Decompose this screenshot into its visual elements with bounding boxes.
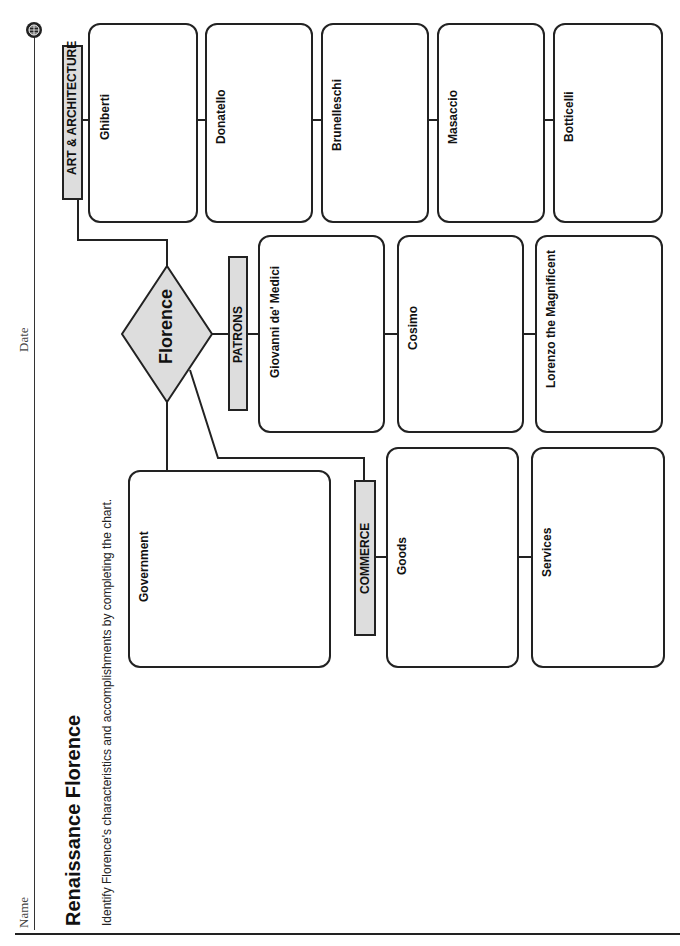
patron-box-giovanni-label: Giovanni de' Medici	[268, 266, 282, 378]
commerce-label: COMMERCE	[358, 523, 372, 594]
art-box-ghiberti-label: Ghiberti	[98, 94, 112, 140]
art-box-brunelleschi-label: Brunelleschi	[330, 79, 344, 151]
worksheet-page: Date Name Renaissance Florence Identify …	[0, 0, 680, 946]
art-box-masaccio-label: Masaccio	[446, 90, 460, 144]
patron-box-lorenzo-label: Lorenzo the Magnificent	[544, 250, 558, 388]
commerce-box-goods-label: Goods	[395, 537, 409, 575]
art-architecture-label: ART & ARCHITECTURE	[65, 41, 79, 175]
patrons-label: PATRONS	[231, 306, 245, 363]
government-box[interactable]	[128, 470, 331, 668]
center-label: Florence	[156, 289, 177, 364]
commerce-box-services-label: Services	[540, 528, 554, 577]
art-box-botticelli-label: Botticelli	[562, 91, 576, 142]
government-label: Government	[137, 531, 151, 602]
patron-box-cosimo-label: Cosimo	[406, 306, 420, 350]
art-box-donatello-label: Donatello	[214, 89, 228, 144]
